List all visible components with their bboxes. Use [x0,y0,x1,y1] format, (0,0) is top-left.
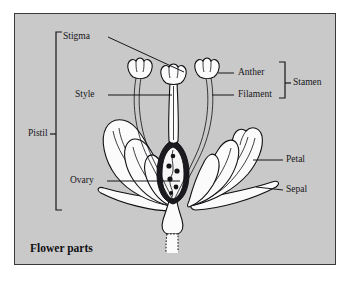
flower-illustration [98,58,278,253]
label-style: Style [75,89,95,99]
label-stamen: Stamen [293,77,322,87]
flower-stem [166,234,178,252]
label-sepal: Sepal [286,184,307,194]
figure-title: Flower parts [30,242,93,255]
stem-tip [167,250,178,253]
ovule [174,185,179,190]
stamen-bracket-shape [279,62,285,98]
pistil-ovary [157,140,189,204]
label-ovary: Ovary [70,175,94,185]
ovule [174,168,179,173]
stamen-bracket [279,62,291,98]
label-pistil: Pistil [28,128,48,138]
anther-left [128,58,153,79]
pistil-bracket [50,32,62,210]
pistil-bracket-shape [56,32,62,210]
label-filament: Filament [238,89,272,99]
flower-parts-figure: Stigma Style Ovary Anther Filament Stame… [0,0,350,283]
label-stigma: Stigma [63,31,91,41]
label-petal: Petal [286,154,305,164]
flower-diagram-svg: Stigma Style Ovary Anther Filament Stame… [0,0,350,283]
ovule [171,154,176,159]
anther-right [195,58,220,79]
pistil-style [169,82,179,143]
ovule [166,163,171,168]
label-anther: Anther [238,67,265,77]
